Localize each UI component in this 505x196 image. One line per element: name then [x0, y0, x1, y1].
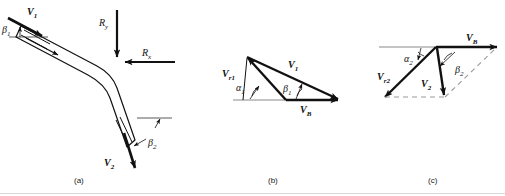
- bottom-divider: [0, 193, 505, 194]
- beta2-leader-arrow: [134, 139, 146, 146]
- v1-vector: [8, 18, 42, 36]
- label-beta1-b: β1: [282, 83, 291, 97]
- beta2-angle-arrow-c: [440, 52, 455, 66]
- panel-b: Vr1 V1 α1 β1 VB: [222, 57, 338, 118]
- label-v2-c: V2: [421, 78, 432, 92]
- label-beta1: β1: [1, 24, 10, 38]
- panel-b-caption: (b): [268, 176, 278, 185]
- panel-c-dashed-diagonal: [445, 48, 496, 97]
- vane-inner-wall: [16, 37, 127, 147]
- panel-a: V1 β1 Ry Rx β2 V2: [1, 6, 175, 171]
- label-v1-b: V1: [288, 59, 298, 73]
- label-alpha2: α2: [404, 53, 413, 67]
- label-vb-b: VB: [300, 104, 312, 118]
- label-vb-c: VB: [466, 32, 478, 46]
- label-v1: V1: [27, 6, 37, 20]
- beta2-angle-arrow: [155, 119, 160, 128]
- figure-canvas: V1 β1 Ry Rx β2 V2: [0, 0, 505, 196]
- label-alpha1: α1: [236, 82, 245, 96]
- label-vr1: Vr1: [222, 68, 235, 82]
- label-rx: Rx: [141, 47, 152, 61]
- alpha1-angle-arrow: [250, 86, 259, 99]
- label-v2: V2: [104, 157, 115, 171]
- panel-a-caption: (a): [74, 176, 84, 185]
- label-ry: Ry: [98, 17, 109, 31]
- label-vr2: Vr2: [377, 71, 390, 85]
- label-beta2-c: β2: [454, 64, 464, 78]
- beta1-angle-arrow-b: [296, 84, 302, 99]
- panel-c-caption: (c): [428, 176, 437, 185]
- panel-c: α2 VB Vr2 V2 β2: [377, 32, 497, 97]
- v2-vector-c: [437, 48, 444, 95]
- v2-vector: [124, 133, 135, 168]
- label-beta2: β2: [147, 137, 157, 151]
- inlet-flow-arrow: [26, 38, 58, 55]
